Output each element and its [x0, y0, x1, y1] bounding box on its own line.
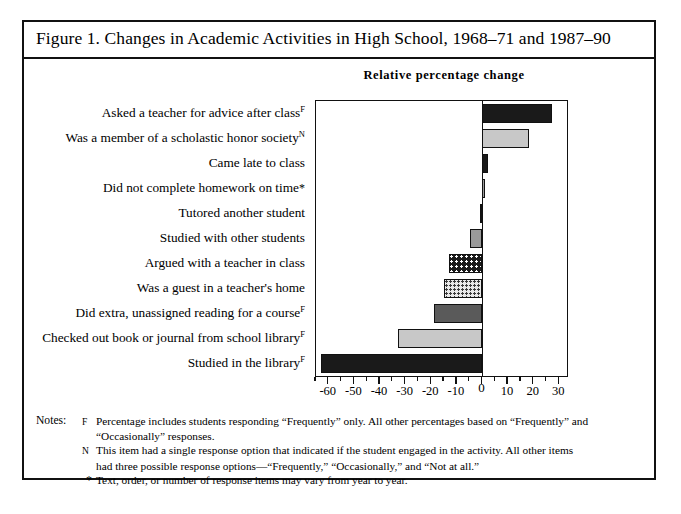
chart-plot-area — [315, 100, 568, 377]
category-label-5: Studied with other students — [34, 225, 310, 250]
category-label-1: Was a member of a scholastic honor socie… — [34, 125, 310, 150]
bar-row — [316, 326, 567, 351]
note-text: Percentage includes students responding … — [96, 414, 648, 428]
bar-1[interactable] — [482, 129, 528, 148]
category-label-8: Did extra, unassigned reading for a cour… — [34, 300, 310, 325]
major-tick--20 — [430, 377, 431, 384]
bar-0[interactable] — [482, 104, 551, 123]
major-tick-20 — [532, 377, 533, 384]
minor-tick--65 — [314, 377, 315, 381]
category-label-9: Checked out book or journal from school … — [34, 325, 310, 350]
category-marker-1: N — [299, 129, 305, 139]
caption-divider — [24, 57, 654, 59]
note-row: N This item had a single response option… — [36, 443, 648, 458]
notes-block: Notes: F Percentage includes students re… — [36, 414, 648, 487]
note-continuation: “Occasionally” responses. — [96, 429, 648, 443]
minor-tick--15 — [442, 377, 443, 381]
minor-tick--55 — [340, 377, 341, 381]
bar-9[interactable] — [398, 329, 483, 348]
x-axis-ticks — [315, 377, 568, 384]
category-axis-labels: Asked a teacher for advice after classFW… — [34, 100, 310, 375]
major-tick--30 — [404, 377, 405, 384]
minor-tick--25 — [417, 377, 418, 381]
tick-label-30: 30 — [543, 384, 573, 399]
category-marker-3: * — [299, 181, 305, 195]
bar-row — [316, 351, 567, 376]
note-row: * Text, order, or number of response ite… — [36, 473, 648, 487]
bar-5[interactable] — [470, 229, 483, 248]
note-continuation: had three possible response options—“Fre… — [96, 459, 648, 473]
category-marker-10: F — [300, 354, 305, 364]
bar-3[interactable] — [482, 179, 485, 198]
figure-frame: Figure 1. Changes in Academic Activities… — [22, 20, 656, 480]
bar-10[interactable] — [321, 354, 482, 373]
major-tick--60 — [327, 377, 328, 384]
major-tick-10 — [506, 377, 507, 384]
bar-6[interactable] — [449, 254, 482, 273]
category-label-2: Came late to class — [34, 150, 310, 175]
note-marker: F — [82, 414, 96, 429]
major-tick--40 — [378, 377, 379, 384]
note-text: Text, order, or number of response items… — [96, 473, 648, 487]
category-marker-8: F — [300, 304, 305, 314]
bar-row — [316, 176, 567, 201]
notes-label: Notes: — [36, 414, 82, 428]
category-label-7: Was a guest in a teacher's home — [34, 275, 310, 300]
category-marker-0: F — [300, 104, 305, 114]
category-label-3: Did not complete homework on time* — [34, 175, 310, 200]
bar-row — [316, 201, 567, 226]
figure-caption: Figure 1. Changes in Academic Activities… — [36, 28, 611, 49]
chart-header-label: Relative percentage change — [314, 68, 574, 83]
bar-row — [316, 276, 567, 301]
minor-tick-25 — [545, 377, 546, 381]
x-axis-tick-labels: -60-50-40-30-20-100102030 — [315, 384, 568, 402]
bar-row — [316, 151, 567, 176]
bar-2[interactable] — [482, 154, 487, 173]
bar-row — [316, 226, 567, 251]
major-tick-30 — [558, 377, 559, 384]
category-label-6: Argued with a teacher in class — [34, 250, 310, 275]
major-tick--10 — [455, 377, 456, 384]
category-marker-9: F — [300, 329, 305, 339]
bar-4[interactable] — [480, 204, 483, 223]
note-marker: N — [82, 443, 96, 458]
bar-row — [316, 251, 567, 276]
major-tick--50 — [353, 377, 354, 384]
category-label-10: Studied in the libraryF — [34, 350, 310, 375]
bar-8[interactable] — [434, 304, 483, 323]
category-label-4: Tutored another student — [34, 200, 310, 225]
category-label-0: Asked a teacher for advice after classF — [34, 100, 310, 125]
note-marker-star: * — [82, 473, 96, 487]
note-text: This item had a single response option t… — [96, 443, 648, 457]
minor-tick--45 — [366, 377, 367, 381]
minor-tick--35 — [391, 377, 392, 381]
bar-row — [316, 101, 567, 126]
note-row: Notes: F Percentage includes students re… — [36, 414, 648, 429]
minor-tick-15 — [519, 377, 520, 381]
bar-row — [316, 301, 567, 326]
bar-7[interactable] — [444, 279, 482, 298]
bar-row — [316, 126, 567, 151]
